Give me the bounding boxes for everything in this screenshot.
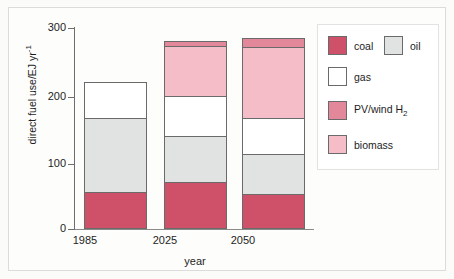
legend-label-pv-wind-h2: PV/wind H2 [354,103,407,118]
y-axis-label-exponent: -1 [24,45,33,52]
segment-1985-gas[interactable] [84,82,147,119]
chart-figure: direct fuel use/EJ yr-1 300 200 100 0 [0,0,454,279]
legend-label-coal: coal [354,40,373,52]
legend-swatch-coal [328,36,347,55]
x-axis-label: year [120,255,270,267]
y-tick-300 [68,28,75,29]
y-tick-label-300: 300 [20,21,66,33]
plot-area [75,28,305,229]
legend-swatch-pv-wind-h2 [328,101,347,120]
segment-1985-coal[interactable] [84,192,147,229]
legend-swatch-oil [384,36,403,55]
bar-2050[interactable] [242,38,305,229]
legend-item-pv-wind-h2[interactable]: PV/wind H2 [328,101,407,120]
segment-2025-gas[interactable] [164,96,227,137]
legend-item-oil[interactable]: oil [384,36,421,55]
legend-label-gas: gas [354,71,371,83]
segment-2050-biomass[interactable] [242,47,305,119]
chart-legend: coal oil gas PV/wind H2 biomass [317,24,439,170]
legend-swatch-biomass [328,135,347,154]
legend-label-biomass: biomass [354,139,393,151]
y-tick-100 [68,164,75,165]
segment-2025-coal[interactable] [164,182,227,229]
segment-2025-biomass[interactable] [164,46,227,97]
y-tick-label-200: 200 [20,90,66,102]
legend-swatch-gas [328,67,347,86]
legend-label-oil: oil [410,40,421,52]
legend-label-pv-wind-h2-mid: H [393,103,404,115]
legend-item-biomass[interactable]: biomass [328,135,393,154]
x-tick-label-2050: 2050 [208,234,278,246]
y-tick-label-0: 0 [20,222,66,234]
y-tick-0 [68,229,75,230]
legend-item-coal[interactable]: coal [328,36,373,55]
legend-label-pv-wind-h2-main: PV/wind [354,103,393,115]
x-axis-line [74,229,314,230]
segment-2050-oil[interactable] [242,154,305,195]
segment-1985-oil[interactable] [84,118,147,193]
y-tick-label-100: 100 [20,157,66,169]
segment-2050-gas[interactable] [242,118,305,155]
x-tick-label-1985: 1985 [50,234,120,246]
bar-1985[interactable] [84,82,147,229]
segment-2025-oil[interactable] [164,136,227,183]
y-tick-200 [68,97,75,98]
legend-item-gas[interactable]: gas [328,67,371,86]
segment-2050-coal[interactable] [242,194,305,229]
x-tick-label-2025: 2025 [130,234,200,246]
bar-2025[interactable] [164,41,227,229]
legend-label-pv-wind-h2-sub: 2 [403,109,407,118]
